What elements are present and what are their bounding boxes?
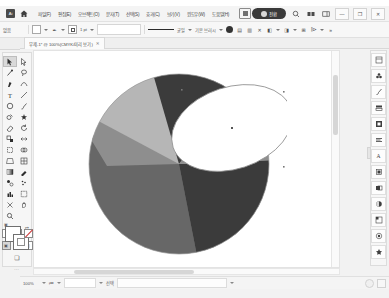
symbols-panel-icon[interactable]: [371, 245, 386, 259]
shaper-tool[interactable]: [3, 111, 17, 122]
hand-tool[interactable]: [17, 199, 31, 210]
pen-tool[interactable]: [3, 78, 17, 89]
menu-view[interactable]: 보기(V): [167, 11, 180, 17]
scrollbar-thumb[interactable]: [74, 270, 194, 274]
type-tool[interactable]: T: [3, 89, 17, 100]
chevron-down-icon[interactable]: [230, 282, 234, 284]
transform-button[interactable]: ▥: [246, 27, 253, 33]
gradient-panel-icon[interactable]: [371, 197, 386, 211]
minimize-button[interactable]: —: [335, 8, 349, 20]
menu-select[interactable]: 선택(S): [126, 11, 139, 17]
document-setup-button[interactable]: ⊞: [300, 27, 307, 33]
libraries-panel-icon[interactable]: [371, 69, 386, 83]
zoom-level-value[interactable]: 100%: [23, 281, 39, 286]
pathfinder-panel-icon[interactable]: [371, 181, 386, 195]
document-tab[interactable]: 무제-1* @ 100%(CMYK/미리 보기) ✕: [24, 37, 105, 49]
magic-wand-tool[interactable]: [3, 67, 17, 78]
restore-button[interactable]: ❐: [353, 8, 367, 20]
perspective-grid-tool[interactable]: [3, 155, 17, 166]
variable-width-profile-field[interactable]: [97, 24, 141, 35]
mesh-tool[interactable]: [17, 155, 31, 166]
home-icon[interactable]: [19, 9, 29, 19]
dock-collapse-handle[interactable]: [367, 147, 371, 159]
preferences-button[interactable]: ⫿⊳: [310, 26, 317, 33]
brushes-panel-icon[interactable]: [371, 85, 386, 99]
menu-file[interactable]: 파일(F): [38, 11, 51, 17]
horizontal-scrollbar[interactable]: [33, 268, 340, 275]
slice-tool[interactable]: [3, 199, 17, 210]
chevron-down-icon[interactable]: [57, 282, 61, 284]
menu-window[interactable]: 윈도우(W): [187, 11, 205, 17]
canvas-area[interactable]: [33, 50, 340, 268]
search-icon[interactable]: [290, 8, 301, 19]
control-bar-overflow-icon[interactable]: »: [327, 27, 334, 33]
close-button[interactable]: ✕: [371, 8, 385, 20]
chevron-down-icon[interactable]: [61, 29, 65, 31]
status-message-field[interactable]: [117, 278, 227, 288]
arrange-documents-icon[interactable]: [305, 8, 316, 19]
line-segment-tool[interactable]: [17, 89, 31, 100]
transform-panel-icon[interactable]: [371, 213, 386, 227]
selection-tool[interactable]: [3, 56, 17, 67]
swatches-panel-icon[interactable]: [371, 165, 386, 179]
workspace-switcher-icon[interactable]: [320, 8, 331, 19]
layers-panel-icon[interactable]: [371, 101, 386, 115]
curvature-tool[interactable]: [17, 78, 31, 89]
vertical-scrollbar[interactable]: [331, 51, 339, 267]
chevron-down-icon[interactable]: [42, 282, 46, 284]
cloud-sync-badge[interactable]: 전환: [252, 8, 286, 19]
lasso-tool[interactable]: [17, 67, 31, 78]
stroke-weight-value[interactable]: 1 pt: [80, 27, 87, 32]
menu-type[interactable]: 문자(T): [106, 11, 119, 17]
chevron-down-icon[interactable]: [320, 29, 324, 31]
eyedropper-tool[interactable]: [17, 166, 31, 177]
free-transform-tool[interactable]: [3, 144, 17, 155]
chevron-down-icon[interactable]: [99, 282, 103, 284]
artboard-number-field[interactable]: [64, 278, 96, 288]
isolate-group-icon[interactable]: ✕: [256, 27, 263, 33]
opacity-mask-icon[interactable]: ◧: [266, 27, 273, 33]
brush-definition-label[interactable]: 기본 브러시: [195, 27, 216, 33]
variable-width-label[interactable]: 균일: [177, 27, 185, 33]
opacity-icon[interactable]: [226, 26, 233, 33]
character-panel-icon[interactable]: A: [371, 149, 386, 163]
paintbrush-tool[interactable]: [17, 100, 31, 111]
gradient-tool[interactable]: [3, 166, 17, 177]
eraser-tool[interactable]: [3, 122, 17, 133]
direct-selection-tool[interactable]: [17, 56, 31, 67]
chevron-down-icon[interactable]: [44, 29, 48, 31]
align-button[interactable]: ▤: [236, 27, 243, 33]
column-graph-tool[interactable]: [3, 188, 17, 199]
artboard-tool[interactable]: [17, 188, 31, 199]
document-arrange-icon[interactable]: [239, 8, 251, 19]
width-tool[interactable]: [17, 133, 31, 144]
stroke-color-swatch[interactable]: [68, 25, 77, 34]
none-fill-mode[interactable]: [24, 229, 33, 238]
scrollbar-thumb[interactable]: [333, 75, 338, 135]
artboards-panel-icon[interactable]: [371, 117, 386, 131]
graphic-style-icon[interactable]: ◨: [283, 27, 290, 33]
artboard-navigation-icon[interactable]: ⏮: [49, 280, 54, 287]
notifications-icon[interactable]: [365, 279, 374, 288]
scale-tool[interactable]: [3, 133, 17, 144]
menu-help[interactable]: 도움말(H): [212, 11, 229, 17]
menu-effect[interactable]: 효과(C): [146, 11, 159, 17]
shape-builder-tool[interactable]: [17, 144, 31, 155]
edit-toolbar-icon[interactable]: ⋯: [14, 266, 20, 272]
resize-grip-icon[interactable]: [377, 279, 386, 288]
blend-tool[interactable]: [3, 177, 17, 188]
symbol-sprayer-tool[interactable]: [17, 177, 31, 188]
fill-color-swatch[interactable]: [32, 25, 41, 34]
close-icon[interactable]: ✕: [96, 41, 100, 46]
menu-object[interactable]: 오브젝트(O): [78, 11, 99, 17]
blob-brush-tool[interactable]: [17, 111, 31, 122]
change-screen-mode-icon[interactable]: ❏: [11, 254, 23, 261]
menu-edit[interactable]: 편집(E): [58, 11, 71, 17]
chevron-down-icon[interactable]: [90, 29, 94, 31]
zoom-tool[interactable]: [3, 210, 17, 221]
normal-screen-mode[interactable]: ▣: [2, 241, 11, 250]
appearance-panel-icon[interactable]: [371, 229, 386, 243]
chevron-down-icon[interactable]: [276, 29, 280, 31]
beach-ball-sphere[interactable]: [87, 56, 287, 262]
rectangle-tool[interactable]: [3, 100, 17, 111]
